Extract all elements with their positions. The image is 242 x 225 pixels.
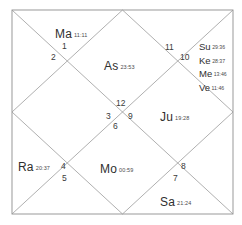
chart-grid [0, 0, 242, 225]
vedic-chart-container: 1 2 3 4 5 6 7 8 9 10 11 12 Ma11:11 As23:… [0, 0, 242, 225]
